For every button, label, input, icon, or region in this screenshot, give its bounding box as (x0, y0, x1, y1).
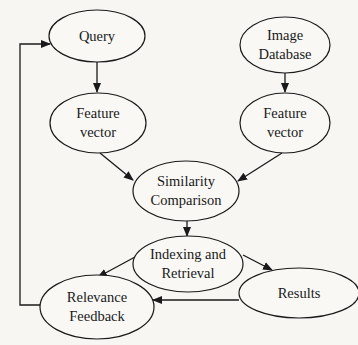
node-feature-vector-database-label-2: vector (267, 124, 303, 140)
edge-indexing-to-relevance (98, 257, 135, 277)
edge-feature-vector-to-similarity (100, 153, 133, 180)
node-similarity-comparison: Similarity Comparison (133, 161, 239, 221)
node-relevance-feedback: Relevance Feedback (40, 275, 154, 339)
node-relevance-label-1: Relevance (67, 289, 127, 305)
node-feature-vector-database: Feature vector (240, 93, 330, 153)
edge-relevance-to-query-loop (20, 44, 50, 305)
node-query: Query (49, 10, 145, 62)
node-feature-vector-database-label-1: Feature (263, 105, 306, 121)
cbir-flow-diagram: Query Image Database Feature vector Feat… (0, 0, 358, 345)
node-image-database-label-1: Image (267, 27, 303, 43)
node-indexing-label-2: Retrieval (161, 265, 214, 281)
node-image-database: Image Database (240, 17, 330, 73)
node-similarity-label-2: Comparison (151, 192, 223, 208)
node-feature-vector-query: Feature vector (50, 93, 146, 153)
edge-db-feature-vector-to-similarity (238, 153, 282, 181)
node-relevance-label-2: Feedback (69, 308, 125, 324)
node-image-database-label-2: Database (258, 46, 311, 62)
node-indexing-label-1: Indexing and (150, 246, 227, 262)
node-feature-vector-query-label-1: Feature (76, 105, 119, 121)
node-similarity-label-1: Similarity (157, 173, 216, 189)
node-feature-vector-query-label-2: vector (80, 124, 116, 140)
node-indexing-retrieval: Indexing and Retrieval (133, 236, 243, 292)
node-query-label: Query (79, 28, 116, 44)
node-results: Results (239, 268, 358, 318)
edge-indexing-to-results (243, 255, 272, 270)
node-results-label: Results (278, 285, 321, 301)
